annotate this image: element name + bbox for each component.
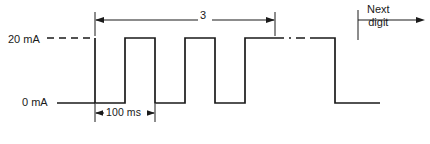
low-level-label: 0 mA (22, 96, 48, 109)
waveform-canvas (0, 0, 430, 144)
pulse-count-arrow-right (266, 17, 275, 23)
high-level-label: 20 mA (8, 33, 40, 46)
period-arrow-left (95, 110, 103, 115)
period-label: 100 ms (106, 106, 141, 118)
timing-diagram-figure: 20 mA 0 mA 100 ms 3 Next digit (0, 0, 430, 144)
pulse-count-arrow-left (95, 17, 104, 23)
pulse-count-label: 3 (200, 9, 206, 22)
waveform-trace-right (311, 38, 380, 103)
waveform-trace-left (95, 38, 275, 103)
next-digit-label-line1: Next (367, 3, 390, 15)
next-digit-label-line2: digit (367, 16, 390, 29)
period-arrow-right (147, 110, 155, 115)
next-digit-label: Next digit (367, 3, 390, 28)
next-digit-arrowhead (416, 17, 425, 23)
